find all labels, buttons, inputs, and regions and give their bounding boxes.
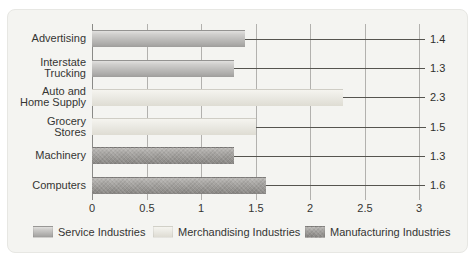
category-label: InterstateTrucking xyxy=(8,57,86,79)
value-label: 2.3 xyxy=(430,91,464,103)
bar-manufacturing xyxy=(92,177,266,194)
category-label-line: Home Supply xyxy=(8,97,86,108)
gridline-x-1 xyxy=(201,24,202,200)
x-tick-label: 3 xyxy=(404,202,434,214)
category-label: GroceryStores xyxy=(8,116,86,138)
category-label: Advertising xyxy=(8,33,86,44)
bar-chart-figure: AdvertisingInterstateTruckingAuto andHom… xyxy=(0,0,475,261)
gridline-x-2 xyxy=(310,24,311,200)
value-leader-line xyxy=(245,39,425,40)
legend-swatch-manufacturing xyxy=(305,226,325,238)
category-label-line: Advertising xyxy=(8,33,86,44)
category-label: Computers xyxy=(8,180,86,191)
bar-service xyxy=(92,60,234,77)
x-tick-label: 0.5 xyxy=(132,202,162,214)
x-tick-label: 1.5 xyxy=(241,202,271,214)
category-label-line: Stores xyxy=(8,127,86,138)
category-label: Auto andHome Supply xyxy=(8,86,86,108)
x-tick-label: 0 xyxy=(77,202,107,214)
value-leader-line xyxy=(234,68,425,69)
category-label-line: Trucking xyxy=(8,68,86,79)
bar-merchandising xyxy=(92,118,256,135)
category-label-line: Computers xyxy=(8,180,86,191)
gridline-x-0.5 xyxy=(147,24,148,200)
x-tick-label: 2.5 xyxy=(350,202,380,214)
category-label: Machinery xyxy=(8,150,86,161)
legend-swatch-merchandising xyxy=(153,226,173,238)
legend-label: Merchandising Industries xyxy=(178,226,300,238)
bar-service xyxy=(92,30,245,47)
x-tick-label: 1 xyxy=(186,202,216,214)
gridline-x-3 xyxy=(419,24,420,200)
value-leader-line xyxy=(234,156,425,157)
legend-label: Manufacturing Industries xyxy=(330,226,450,238)
value-leader-line xyxy=(256,127,426,128)
category-label-line: Machinery xyxy=(8,150,86,161)
value-label: 1.5 xyxy=(430,121,464,133)
x-tick-label: 2 xyxy=(295,202,325,214)
legend-swatch-service xyxy=(33,226,53,238)
legend-label: Service Industries xyxy=(58,226,145,238)
y-axis-line xyxy=(92,24,93,200)
gridline-x-1.5 xyxy=(256,24,257,200)
value-label: 1.4 xyxy=(430,33,464,45)
value-label: 1.3 xyxy=(430,150,464,162)
value-label: 1.3 xyxy=(430,62,464,74)
value-leader-line xyxy=(266,185,425,186)
bar-manufacturing xyxy=(92,147,234,164)
gridline-x-2.5 xyxy=(365,24,366,200)
value-label: 1.6 xyxy=(430,179,464,191)
value-leader-line xyxy=(343,97,425,98)
bar-merchandising xyxy=(92,89,343,106)
